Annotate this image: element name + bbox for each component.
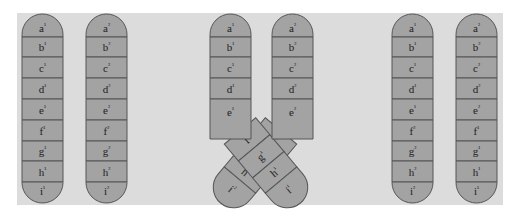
chromosome-1-upper: a¹b¹c¹d¹e¹ <box>210 14 251 139</box>
chromosome-segment <box>272 99 313 139</box>
chromosome-2-before: a²b²c²d²e²f²g²h²i² <box>86 14 127 203</box>
chromosome-1-before: a¹b¹c¹d¹e¹f¹g¹h¹i¹ <box>22 14 63 203</box>
chromosome-2-upper: a²b²c²d²e² <box>272 14 313 139</box>
recombinant-chromosome-1: a¹b¹c¹d¹e¹f²g²h²i² <box>392 14 433 203</box>
recombinant-chromosome-2: a²b²c²d²e²f¹g¹h¹i¹ <box>456 14 497 203</box>
chromosome-segment <box>210 99 251 139</box>
crossing-over-diagram: a¹b¹c¹d¹e¹f¹g¹h¹i¹a²b²c²d²e²f²g²h²i²a¹b¹… <box>0 0 517 221</box>
